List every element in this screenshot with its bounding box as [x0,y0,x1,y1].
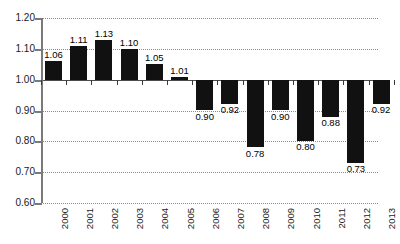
bar-value-label: 0.78 [238,149,272,159]
x-axis-tick [217,80,218,85]
y-axis-tick-label: 0.60 [2,198,35,208]
y-axis-tick-label-wrap: 0.60 [0,198,35,208]
y-axis-tick-label: 1.20 [2,13,35,23]
y-axis-line [41,18,43,203]
bar-value-label: 0.90 [263,112,297,122]
gridline [41,172,378,173]
bar [70,46,87,80]
bar [322,80,339,117]
y-axis-tick-label-wrap: 0.90 [0,106,35,116]
bar-chart: 1.201.101.000.900.800.700.60 1.061.111.1… [0,0,400,244]
y-axis-tick-label: 0.90 [2,106,35,116]
y-axis-tick-label: 1.00 [2,75,35,85]
y-axis-tick [35,203,42,205]
bar-value-label: 1.06 [37,50,71,60]
bar [146,64,163,79]
bar [373,80,390,105]
x-axis-label: 2010 [311,208,322,229]
bar-value-label: 0.73 [339,164,373,174]
x-axis-tick [268,80,269,85]
bar [297,80,314,142]
bar [121,49,138,80]
x-axis-label: 2009 [285,208,296,229]
x-axis-tick [243,80,244,85]
bar [171,77,188,80]
bar [45,61,62,80]
x-axis-label: 2000 [59,208,70,229]
y-axis-tick-label-wrap: 1.20 [0,13,35,23]
bar [247,80,264,148]
x-axis-tick [394,80,395,85]
bar-value-label: 1.01 [163,66,197,76]
x-axis-tick [369,80,370,85]
bar [272,80,289,111]
x-axis-label: 2003 [134,208,145,229]
gridline [41,18,378,19]
x-axis-label: 2004 [159,208,170,229]
y-axis-tick-label-wrap: 1.00 [0,75,35,85]
x-axis-tick [343,80,344,85]
x-axis-label: 2001 [84,208,95,229]
bar-value-label: 0.92 [213,105,247,115]
y-axis-tick-label: 1.10 [2,44,35,54]
y-axis-tick-label-wrap: 1.10 [0,44,35,54]
x-axis-label: 2011 [336,208,347,228]
bar-value-label: 0.92 [364,105,398,115]
x-axis-tick [66,80,67,85]
y-axis-tick-label: 0.80 [2,136,35,146]
x-axis-tick [117,80,118,85]
gridline [41,49,378,50]
x-axis-tick [41,80,42,85]
x-axis-label: 2013 [386,208,397,229]
bar [95,40,112,80]
y-axis-tick-label: 0.70 [2,167,35,177]
bar-value-label: 0.80 [289,142,323,152]
x-axis-tick [142,80,143,85]
bar-value-label: 1.05 [137,53,171,63]
x-axis-tick [167,80,168,85]
x-axis-label: 2002 [109,208,120,229]
bar-value-label: 0.88 [314,118,348,128]
x-axis-tick [318,80,319,85]
x-axis-label: 2005 [185,208,196,229]
bar [347,80,364,163]
bar [196,80,213,111]
gridline [41,203,378,204]
bar-value-label: 1.10 [112,38,146,48]
x-axis-label: 2008 [260,208,271,229]
x-axis-tick [293,80,294,85]
bar [221,80,238,105]
x-axis-tick [91,80,92,85]
x-axis-label: 2007 [235,208,246,229]
x-axis-label: 2006 [210,208,221,229]
gridline [41,141,378,142]
y-axis-tick-label-wrap: 0.80 [0,136,35,146]
x-axis-tick [192,80,193,85]
y-axis-tick-label-wrap: 0.70 [0,167,35,177]
x-axis-label: 2012 [361,208,372,229]
